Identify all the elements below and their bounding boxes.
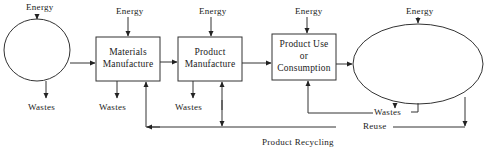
- product-recycling-label: Product Recycling: [262, 137, 334, 147]
- box-line: Consumption: [272, 62, 336, 74]
- energy-label: Energy: [116, 6, 144, 16]
- box-line: Manufacture: [178, 58, 242, 70]
- wastes-label: Wastes: [175, 102, 202, 112]
- disposal-ellipse: [353, 24, 483, 104]
- wastes-label: Wastes: [99, 102, 126, 112]
- reuse-label: Reuse: [361, 121, 389, 131]
- flow-diagram: [0, 0, 485, 153]
- product-manufacture-label: Product Manufacture: [178, 46, 242, 70]
- box-line: Product Use: [272, 38, 336, 50]
- energy-label: Energy: [295, 6, 323, 16]
- box-line: or: [272, 50, 336, 62]
- product-use-label: Product Use or Consumption: [272, 38, 336, 74]
- energy-label: Energy: [199, 6, 227, 16]
- box-line: Product: [178, 46, 242, 58]
- wastes-label: Wastes: [28, 102, 55, 112]
- materials-manufacture-label: Materials Manufacture: [96, 46, 160, 70]
- raw-materials-ellipse: [4, 19, 70, 81]
- energy-label: Energy: [26, 2, 54, 12]
- box-line: Manufacture: [96, 58, 160, 70]
- wastes-label: Wastes: [374, 107, 401, 117]
- box-line: Materials: [96, 46, 160, 58]
- energy-label: Energy: [406, 6, 434, 16]
